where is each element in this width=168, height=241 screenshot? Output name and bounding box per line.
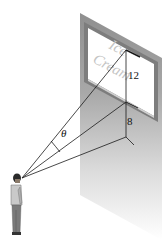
label-8: 8: [127, 115, 133, 127]
legs: [12, 205, 21, 233]
label-12: 12: [128, 69, 139, 81]
person-figure: [11, 174, 22, 236]
theta-arc: [51, 141, 60, 152]
label-theta: θ: [61, 127, 67, 139]
shoes: [12, 232, 21, 235]
billboard-diagram: Ice Cream 12 8 θ: [0, 0, 168, 241]
